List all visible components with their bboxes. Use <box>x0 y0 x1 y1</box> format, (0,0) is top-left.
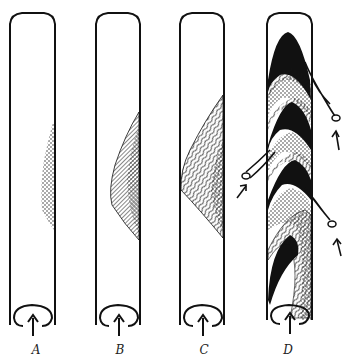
arrow-icon <box>332 131 339 150</box>
panel-label-b: B <box>110 343 130 357</box>
tube-c <box>180 13 224 336</box>
panel-label-a: A <box>26 343 46 357</box>
figure-canvas <box>0 0 351 364</box>
panel-label-c: C <box>194 343 214 357</box>
panel-label-d: D <box>278 343 298 357</box>
stippled-deposit <box>41 122 55 230</box>
arrow-icon <box>237 185 246 198</box>
tube-d <box>237 13 341 334</box>
tube-b <box>96 13 140 336</box>
tube-a <box>10 13 55 336</box>
arrow-icon <box>333 239 341 256</box>
